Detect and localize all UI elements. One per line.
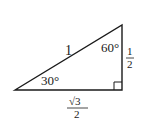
vertical-side-label: 1 2: [126, 45, 134, 70]
right-angle-marker: [114, 82, 122, 90]
vertical-side-numerator: 1: [127, 45, 133, 57]
base-numerator: √3: [69, 95, 81, 107]
vertical-side-denominator: 2: [127, 58, 133, 70]
hypotenuse-label: 1: [65, 43, 72, 58]
angle-60-label: 60°: [101, 40, 119, 55]
angle-30-label: 30°: [41, 73, 59, 88]
base-label: √3 2: [67, 95, 88, 120]
triangle-diagram: 1 30° 60° 1 2 √3 2: [0, 0, 142, 127]
base-denominator: 2: [74, 108, 80, 120]
